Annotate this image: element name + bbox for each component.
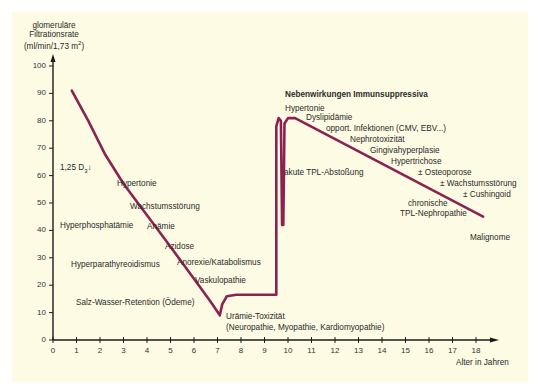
x-tick-label: 0 <box>46 346 60 355</box>
y-axis-label-line-1: glomeruläre <box>16 21 92 30</box>
y-tick-label: 70 <box>24 143 46 152</box>
y-tick-label: 50 <box>24 198 46 207</box>
annotation-wachstumsstoerung-left: Wachstumsstörung <box>130 202 200 211</box>
y-tick-label: 60 <box>24 171 46 180</box>
annotation-vaskulopathie: Vaskulopathie <box>195 276 246 285</box>
annotation-hyperparathyreoidismus: Hyperparathyreoidismus <box>71 260 160 269</box>
x-tick-label: 11 <box>305 346 319 355</box>
x-tick-label: 8 <box>234 346 248 355</box>
annotation-anorexie: Anorexie/Katabolismus <box>177 258 261 267</box>
annotation-salz-wasser: Salz-Wasser-Retention (Ödeme) <box>76 298 194 307</box>
x-tick-label: 9 <box>258 346 272 355</box>
annotation-nw-hypertrichose: Hypertrichose <box>391 157 442 166</box>
x-tick-label: 13 <box>352 346 366 355</box>
y-tick-label: 90 <box>24 88 46 97</box>
y-tick-label: 40 <box>24 225 46 234</box>
annotation-nw-infektionen: opport. Infektionen (CMV, EBV...) <box>326 124 446 133</box>
x-tick-label: 6 <box>187 346 201 355</box>
y-tick-label: 30 <box>24 253 46 262</box>
y-axis-arrow-icon <box>51 54 56 62</box>
annotation-nw-osteoporose: ± Osteoporose <box>418 168 472 177</box>
annotation-nw-dyslipidaemie: Dyslipidämie <box>306 113 352 122</box>
x-tick-label: 12 <box>328 346 342 355</box>
annotation-nw-hypertonie: Hypertonie <box>285 104 325 113</box>
y-tick-label: 20 <box>24 280 46 289</box>
x-tick-label: 14 <box>375 346 389 355</box>
y-axis-label-line-2: Filtrationsrate <box>16 30 92 39</box>
x-axis-label: Alter in Jahren <box>456 358 509 367</box>
y-tick-label: 0 <box>24 335 46 344</box>
x-tick-label: 3 <box>117 346 131 355</box>
annotation-uraemie-1: Urämie-Toxizität <box>226 312 285 321</box>
annotation-azidose: Azidose <box>165 242 194 251</box>
x-tick-label: 5 <box>164 346 178 355</box>
annotation-nw-wachstumsstoerung: ± Wachstumsstörung <box>440 179 517 188</box>
x-tick-label: 15 <box>399 346 413 355</box>
x-tick-label: 7 <box>211 346 225 355</box>
y-tick-label: 100 <box>24 61 46 70</box>
x-tick-label: 4 <box>140 346 154 355</box>
x-tick-label: 2 <box>93 346 107 355</box>
x-tick-label: 1 <box>70 346 84 355</box>
annotation-d3: 1,25 D3↓ <box>60 163 92 175</box>
x-axis-arrow-icon <box>490 338 499 343</box>
x-tick-label: 10 <box>281 346 295 355</box>
y-tick-label: 10 <box>24 308 46 317</box>
x-tick-label: 17 <box>446 346 460 355</box>
x-tick-label: 18 <box>469 346 483 355</box>
gfr-chart-plot <box>0 0 540 392</box>
annotation-hyperphosphataemie: Hyperphosphatämie <box>60 221 133 230</box>
annotation-hypertonie-left: Hypertonie <box>117 179 157 188</box>
y-tick-label: 80 <box>24 116 46 125</box>
y-axis-label-line-3: (ml/min/1,73 m2) <box>16 40 92 51</box>
y-axis-label: glomeruläre Filtrationsrate (ml/min/1,73… <box>16 21 92 51</box>
annotation-nw-cushingoid: ± Cushingoid <box>463 190 511 199</box>
annotation-akute-abstossung: akute TPL-Abstoßung <box>284 168 364 177</box>
x-tick-label: 16 <box>422 346 436 355</box>
annotation-malignome: Malignome <box>470 233 510 242</box>
annotation-anaemie: Anämie <box>147 222 175 231</box>
annotation-uraemie-2: (Neuropathie, Myopathie, Kardiomyopathie… <box>226 323 384 332</box>
annotation-nw-gingivahyperplasie: Gingivahyperplasie <box>370 146 440 155</box>
annotation-tpl-nephropathie: TPL-Nephropathie <box>400 209 467 218</box>
down-arrow-icon: ↓ <box>87 163 91 172</box>
y-axis-unit: (ml/min/1,73 m <box>24 42 78 51</box>
annotation-nw-nephrotoxizitaet: Nephrotoxizität <box>350 135 405 144</box>
y-axis-unit-close: ) <box>81 42 84 51</box>
annotation-chronische: chronische <box>408 199 448 208</box>
annotation-d3-text: 1,25 D <box>60 163 84 172</box>
annotation-title-immunsuppressiva: Nebenwirkungen Immunsuppressiva <box>285 90 428 99</box>
